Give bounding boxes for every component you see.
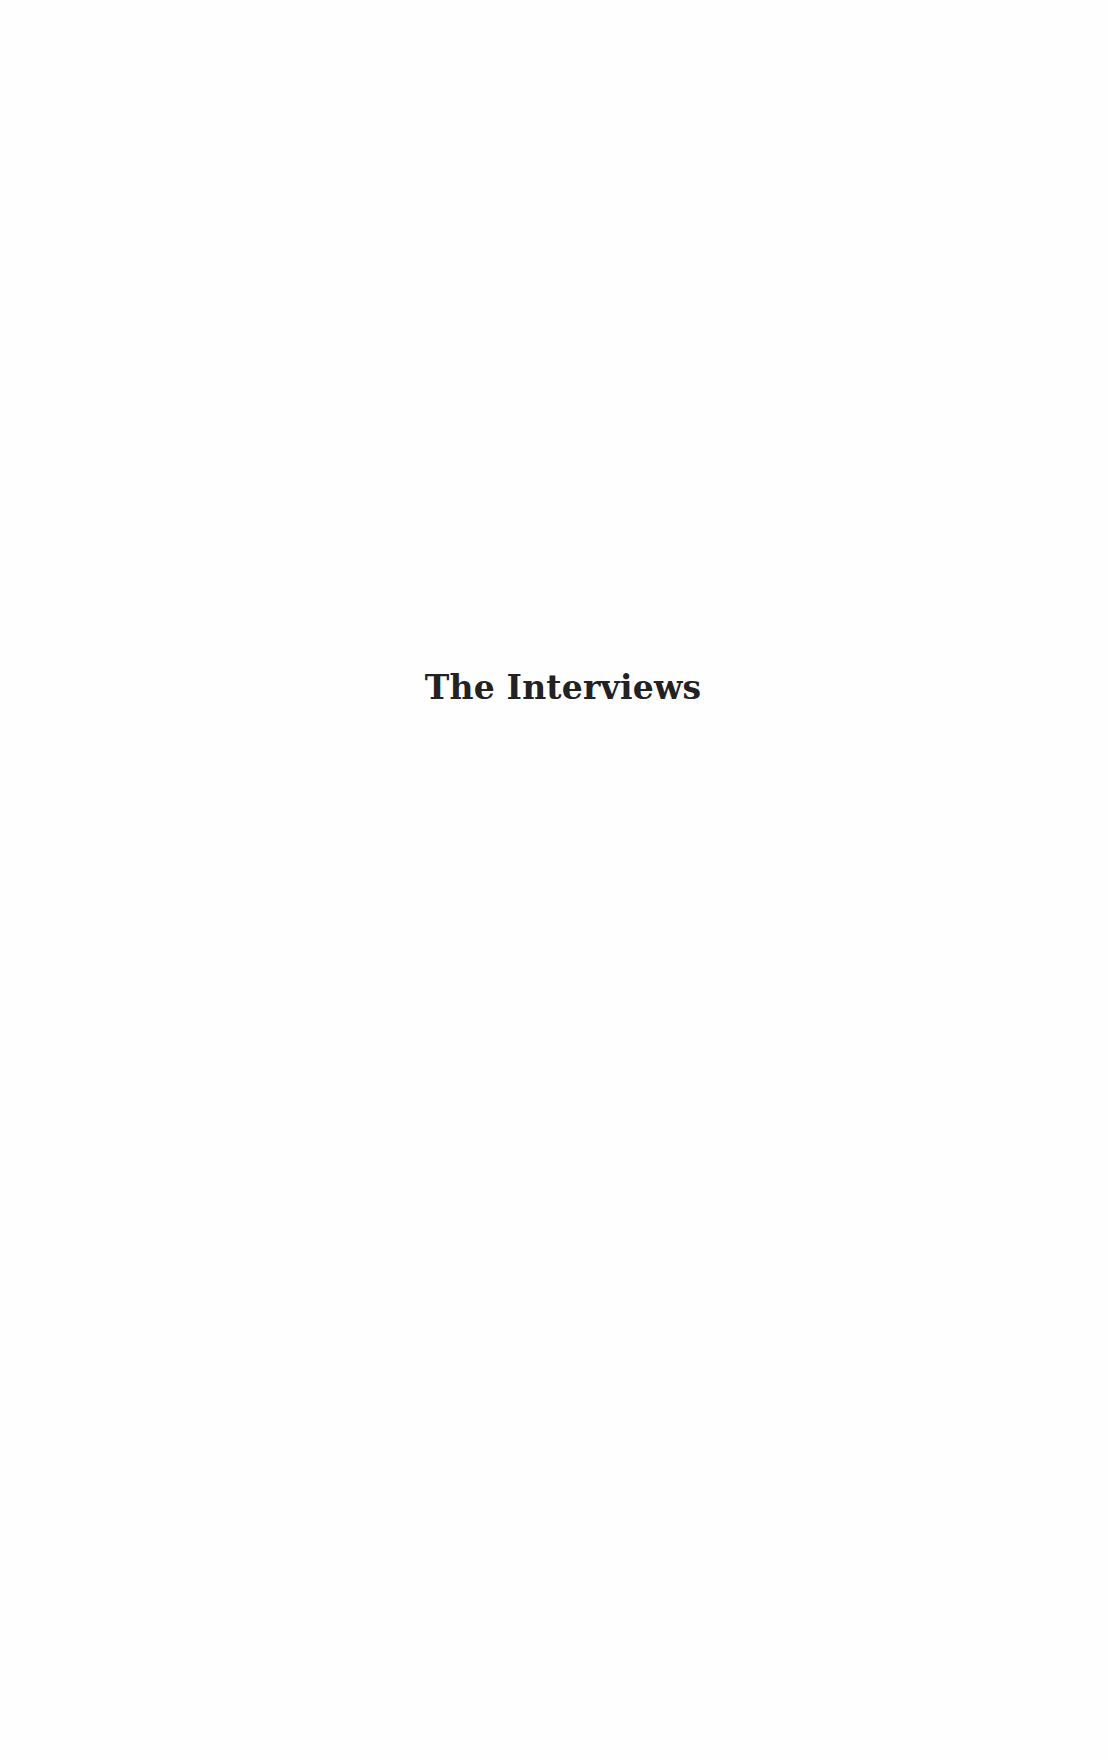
document-page: The Interviews	[0, 0, 1108, 1759]
section-title: The Interviews	[0, 666, 1108, 710]
